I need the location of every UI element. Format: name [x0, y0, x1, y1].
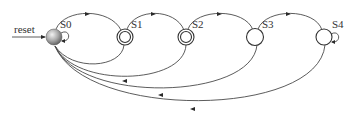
state-s3: S3	[247, 18, 275, 46]
state-s2: S2	[178, 18, 204, 45]
state-s0: S0	[46, 18, 72, 45]
forward-transitions	[56, 12, 322, 30]
state-s4-label: S4	[332, 18, 344, 30]
reset-label: reset	[14, 23, 35, 35]
state-s3-label: S3	[262, 18, 274, 30]
state-s1: S1	[117, 18, 143, 45]
state-s0-label: S0	[60, 18, 72, 30]
state-diagram: reset S0 S1 S2	[0, 0, 350, 125]
state-s1-label: S1	[131, 18, 143, 30]
return-transitions	[55, 45, 325, 111]
edge-s3-s0	[55, 45, 257, 88]
state-s2-label: S2	[192, 18, 204, 30]
state-s4: S4	[316, 18, 344, 45]
reset-input-arrow: reset	[12, 23, 46, 39]
